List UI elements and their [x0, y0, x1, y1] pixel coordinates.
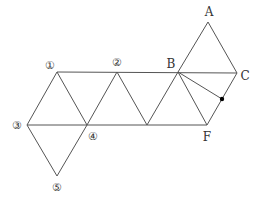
- label-3: ③: [12, 120, 22, 131]
- label-A: A: [205, 6, 214, 18]
- edge-n1-n3: [27, 72, 57, 125]
- edge-B-m: [147, 72, 178, 125]
- point-on-CF: [220, 97, 224, 101]
- edge-B-P: [178, 72, 222, 99]
- edge-B-A: [178, 22, 208, 72]
- label-1: ①: [45, 60, 55, 71]
- edge-n1-n4: [57, 72, 87, 125]
- edge-B-F: [178, 72, 207, 125]
- edge-n3-n5: [27, 125, 57, 176]
- octahedron-net-diagram: ABCF①②③④⑤: [0, 0, 258, 209]
- edge-n2-m: [117, 72, 147, 125]
- net-drawing: [0, 0, 258, 209]
- edge-n4-n5: [57, 125, 87, 176]
- label-2: ②: [112, 57, 122, 68]
- label-B: B: [167, 58, 176, 70]
- label-5: ⑤: [52, 182, 62, 193]
- label-F: F: [203, 131, 211, 143]
- edge-n2-n4: [87, 72, 117, 125]
- label-4: ④: [88, 131, 98, 142]
- edge-n1-C: [57, 72, 237, 73]
- edge-A-C: [208, 22, 237, 73]
- label-C: C: [240, 70, 249, 82]
